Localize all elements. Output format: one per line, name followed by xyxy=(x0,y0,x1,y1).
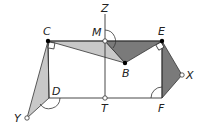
label-B: B xyxy=(122,67,130,80)
label-X: X xyxy=(185,69,194,82)
label-E: E xyxy=(158,25,165,38)
triangle-CDY xyxy=(27,41,49,118)
point-C xyxy=(46,39,50,43)
point-M xyxy=(103,39,107,43)
point-Y xyxy=(25,116,29,120)
point-T xyxy=(103,96,107,100)
point-B xyxy=(123,61,127,65)
right-angle-mark-C xyxy=(48,42,55,49)
label-C: C xyxy=(43,25,51,38)
label-T: T xyxy=(101,102,109,115)
point-X xyxy=(180,73,184,77)
geometry-diagram: Z C M E B D T F Y X xyxy=(0,0,205,131)
label-M: M xyxy=(92,26,102,39)
label-D: D xyxy=(52,85,60,98)
label-F: F xyxy=(158,102,165,115)
label-Z: Z xyxy=(100,2,109,15)
angle-arc-F xyxy=(151,87,162,98)
triangle-EFX xyxy=(162,41,182,98)
label-Y: Y xyxy=(14,112,22,125)
point-E xyxy=(160,39,164,43)
